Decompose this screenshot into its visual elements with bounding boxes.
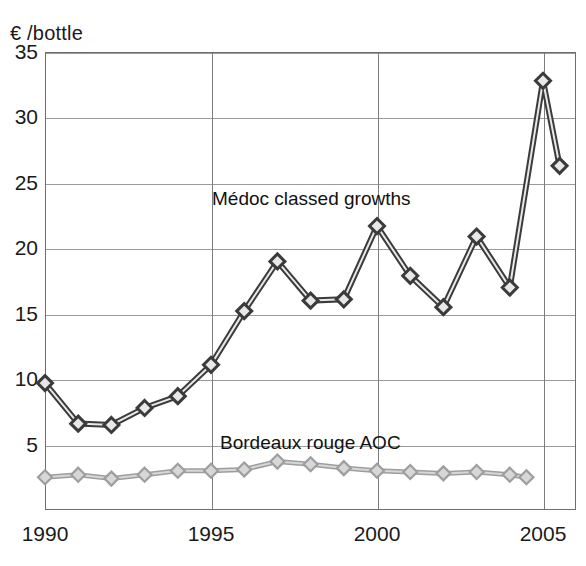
- data-point-marker: [204, 464, 218, 478]
- data-point-marker: [171, 464, 185, 478]
- data-point-marker: [237, 462, 251, 476]
- series-plot: [0, 0, 586, 566]
- data-point-marker: [552, 158, 567, 173]
- data-point-marker: [38, 470, 52, 484]
- series-line-highlight: [45, 81, 560, 425]
- data-point-marker: [104, 472, 118, 486]
- annotation-bordeaux-rouge-aoc: Bordeaux rouge AOC: [220, 432, 401, 454]
- data-point-marker: [519, 470, 533, 484]
- data-point-marker: [436, 466, 450, 480]
- data-point-marker: [270, 455, 284, 469]
- data-point-marker: [403, 465, 417, 479]
- data-point-marker: [470, 465, 484, 479]
- annotation-medoc-classed-growths: Médoc classed growths: [212, 188, 411, 210]
- data-point-marker: [337, 461, 351, 475]
- chart-container: € /bottle 35 30 25 20 15 10 5 1990 1995 …: [0, 0, 586, 566]
- data-point-marker: [304, 457, 318, 471]
- data-point-marker: [503, 468, 517, 482]
- series-line: [45, 81, 560, 425]
- series-medoc-classed-growths: [38, 73, 568, 432]
- data-point-marker: [536, 73, 551, 88]
- data-point-marker: [138, 468, 152, 482]
- series-bordeaux-rouge-aoc: [38, 455, 533, 486]
- data-point-marker: [71, 468, 85, 482]
- data-point-marker: [370, 464, 384, 478]
